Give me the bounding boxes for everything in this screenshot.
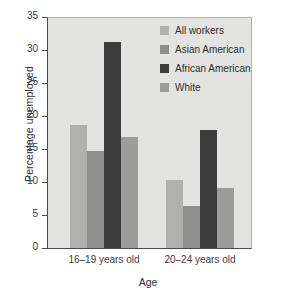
legend-item: All workers xyxy=(160,21,252,40)
bar xyxy=(121,137,138,248)
legend-item-label: African American xyxy=(175,64,251,74)
x-axis-title: Age xyxy=(44,276,252,288)
y-axis-tick-mark xyxy=(42,83,47,84)
bar xyxy=(70,125,87,248)
legend-swatch-icon xyxy=(160,83,169,92)
x-axis-category-label: 20–24 years old xyxy=(150,254,250,265)
bar xyxy=(166,180,183,248)
y-axis-tick-label: 0 xyxy=(32,241,38,252)
bar xyxy=(200,130,217,248)
y-axis-tick-label: 10 xyxy=(27,175,38,186)
legend-swatch-icon xyxy=(160,64,169,73)
y-axis-tick-mark xyxy=(42,50,47,51)
y-axis-tick-mark xyxy=(42,17,47,18)
bar xyxy=(87,151,104,248)
y-axis-tick-mark xyxy=(42,182,47,183)
y-axis-tick-label: 25 xyxy=(27,76,38,87)
y-axis-tick-mark xyxy=(42,149,47,150)
x-axis-category-label: 16–19 years old xyxy=(54,254,154,265)
bar xyxy=(104,42,121,248)
bar xyxy=(183,206,200,248)
legend-item-label: All workers xyxy=(175,26,224,36)
legend-item: African American xyxy=(160,59,252,78)
y-axis-tick-label: 30 xyxy=(27,43,38,54)
legend-item: Asian American xyxy=(160,40,252,59)
y-axis-tick-mark xyxy=(42,248,47,249)
unemployment-bar-chart: Percentage unemployed 05101520253035 16–… xyxy=(0,0,282,296)
chart-legend: All workersAsian AmericanAfrican America… xyxy=(160,21,252,97)
legend-item-label: White xyxy=(175,83,201,93)
y-axis-tick-label: 20 xyxy=(27,109,38,120)
bar xyxy=(217,188,234,248)
legend-swatch-icon xyxy=(160,26,169,35)
legend-swatch-icon xyxy=(160,45,169,54)
legend-item-label: Asian American xyxy=(175,45,244,55)
legend-item: White xyxy=(160,78,252,97)
bar-group xyxy=(70,18,138,248)
y-axis-tick-label: 15 xyxy=(27,142,38,153)
y-axis-tick-mark xyxy=(42,215,47,216)
y-axis-tick-label: 5 xyxy=(32,208,38,219)
y-axis-tick-mark xyxy=(42,116,47,117)
y-axis-tick-label: 35 xyxy=(27,10,38,21)
